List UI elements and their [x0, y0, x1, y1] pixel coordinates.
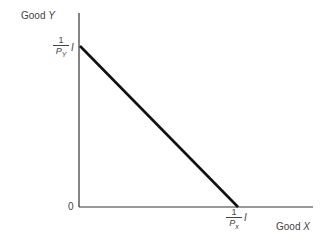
origin-label: 0: [68, 201, 74, 212]
y-intercept-fraction: 1 PY: [53, 35, 69, 60]
budget-line: [80, 46, 238, 207]
y-intercept-income: I: [71, 42, 74, 53]
chart-canvas: [0, 0, 327, 247]
x-intercept-fraction: 1 Px: [226, 207, 242, 232]
x-axis-label: Good X: [276, 221, 310, 232]
y-axis-label: Good Y: [21, 10, 55, 21]
x-intercept-income: I: [244, 212, 247, 223]
